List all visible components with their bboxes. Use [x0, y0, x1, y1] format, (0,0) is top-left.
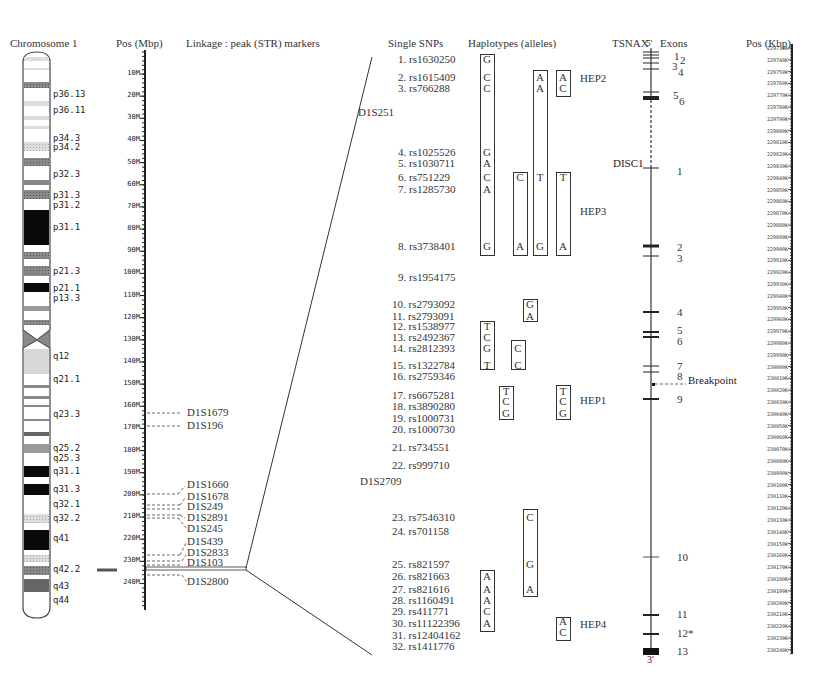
- snp-item: 32. rs1411776: [392, 640, 455, 652]
- band-label: q31.3: [53, 484, 80, 494]
- mbp-tick-label: 80M: [100, 224, 140, 232]
- kbp-tick-label: 230200K: [752, 600, 788, 606]
- exon-label: 9: [677, 393, 683, 405]
- mbp-tick-label: 110M: [100, 291, 140, 299]
- mbp-tick-label: 10M: [100, 69, 140, 77]
- band-label: q32.2: [53, 513, 80, 523]
- band-label: q42.2: [53, 564, 80, 574]
- snp-item: 10. rs2793092: [392, 298, 455, 310]
- kbp-tick-label: 229940K: [752, 293, 788, 299]
- kbp-tick-label: 230090K: [752, 470, 788, 476]
- mbp-tick-label: 100M: [100, 268, 140, 276]
- snp-item: 5. rs1030711: [398, 157, 455, 169]
- str-marker: D1S245: [187, 522, 223, 534]
- allele: G: [533, 240, 547, 252]
- kbp-tick-label: 229760K: [752, 80, 788, 86]
- snp-item: 8. rs3738401: [398, 240, 455, 252]
- str-marker: D1S1660: [187, 478, 229, 490]
- kbp-tick-label: 230120K: [752, 505, 788, 511]
- band-label: p31.1: [53, 222, 80, 232]
- kbp-tick-label: 230060K: [752, 434, 788, 440]
- band-label: q23.3: [53, 409, 80, 419]
- mbp-tick-label: 90M: [100, 246, 140, 254]
- kbp-tick-label: 229770K: [752, 92, 788, 98]
- kbp-tick-label: 230140K: [752, 529, 788, 535]
- allele: T: [556, 171, 570, 183]
- kbp-tick-label: 230110K: [752, 493, 788, 499]
- band-label: q43: [53, 581, 69, 591]
- allele: C: [511, 359, 525, 371]
- mbp-tick-label: 50M: [100, 158, 140, 166]
- kbp-tick-label: 229870K: [752, 210, 788, 216]
- kbp-tick-label: 229810K: [752, 139, 788, 145]
- kbp-tick-label: 229950K: [752, 305, 788, 311]
- hep-label: HEP1: [580, 394, 606, 406]
- kbp-tick-label: 230180K: [752, 576, 788, 582]
- exon-label: 8: [677, 370, 683, 382]
- kbp-tick-label: 230190K: [752, 588, 788, 594]
- mbp-tick-label: 230M: [100, 556, 140, 564]
- kbp-tick-label: 230020K: [752, 387, 788, 393]
- snp-item: 29. rs411771: [392, 605, 449, 617]
- allele: T: [533, 171, 547, 183]
- kbp-tick-label: 230160K: [752, 552, 788, 558]
- exon-label: 1: [677, 165, 683, 177]
- allele: A: [523, 583, 537, 595]
- str-marker: D1S103: [187, 556, 223, 568]
- snp-item: 9. rs1954175: [398, 271, 455, 283]
- snp-item: 21. rs734551: [392, 441, 449, 453]
- chromosome-ideogram: [23, 52, 50, 618]
- exon-label: 5: [673, 89, 679, 101]
- kbp-tick-label: 229750K: [752, 69, 788, 75]
- band-label: p36.13: [53, 89, 86, 99]
- allele: A: [480, 570, 494, 582]
- allele: G: [499, 407, 513, 419]
- band-label: p32.3: [53, 169, 80, 179]
- band-label: q25.2: [53, 443, 80, 453]
- snp-item: 24. rs701158: [392, 525, 449, 537]
- kbp-tick-label: 229860K: [752, 198, 788, 204]
- kbp-tick-label: 229820K: [752, 151, 788, 157]
- kbp-tick-label: 229900K: [752, 246, 788, 252]
- kbp-tick-label: 230040K: [752, 411, 788, 417]
- band-label: p21.1: [53, 283, 80, 293]
- allele: C: [480, 82, 494, 94]
- allele: C: [513, 171, 527, 183]
- kbp-tick-label: 229830K: [752, 163, 788, 169]
- kbp-tick-label: 230230K: [752, 635, 788, 641]
- hep-label: HEP4: [580, 618, 606, 630]
- kbp-tick-label: 230030K: [752, 399, 788, 405]
- band-label: p13.3: [53, 293, 80, 303]
- kbp-tick-label: 229890K: [752, 234, 788, 240]
- snp-item: 3. rs766288: [398, 82, 450, 94]
- mbp-tick-label: 70M: [100, 202, 140, 210]
- kbp-tick-label: 230130K: [752, 517, 788, 523]
- snp-item: 26. rs821663: [392, 570, 449, 582]
- allele: A: [480, 157, 494, 169]
- mbp-tick-label: 200M: [100, 490, 140, 498]
- kbp-tick-label: 229730K: [752, 45, 788, 51]
- allele: C: [480, 605, 494, 617]
- kbp-tick-label: 230150K: [752, 541, 788, 547]
- band-label: p31.2: [53, 200, 80, 210]
- three-prime-label: 3': [647, 654, 654, 665]
- snp-item: 18. rs3890280: [392, 400, 455, 412]
- kbp-tick-label: 229980K: [752, 340, 788, 346]
- band-label: q12: [53, 351, 69, 361]
- str-marker: D1S196: [187, 419, 223, 431]
- exon-label: 12*: [677, 627, 694, 639]
- exon-label: 4: [678, 66, 684, 78]
- snp-item: 6. rs751229: [398, 171, 450, 183]
- allele: G: [523, 558, 537, 570]
- allele: G: [523, 298, 537, 310]
- kbp-tick-label: 229970K: [752, 328, 788, 334]
- str-marker: D1S2800: [187, 575, 229, 587]
- snp-item: 1. rs1630250: [398, 53, 455, 65]
- haplotype-box: [533, 70, 548, 256]
- snp-item: 7. rs1285730: [398, 183, 455, 195]
- kbp-tick-label: 230050K: [752, 423, 788, 429]
- kbp-tick-label: 229990K: [752, 352, 788, 358]
- mbp-tick-label: 40M: [100, 135, 140, 143]
- mbp-tick-label: 60M: [100, 180, 140, 188]
- exon-label: 6: [677, 335, 683, 347]
